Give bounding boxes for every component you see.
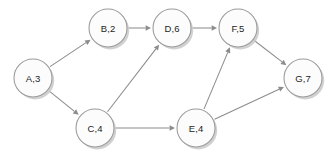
node-label: G,7 xyxy=(295,73,311,84)
edge-c-to-d xyxy=(108,45,160,112)
edge-e-to-f xyxy=(204,47,230,109)
arrowhead-icon xyxy=(85,40,91,45)
node-c[interactable]: C,4 xyxy=(76,109,116,149)
node-label: A,3 xyxy=(26,73,41,84)
edge-e-to-g xyxy=(215,87,284,120)
arrowhead-icon xyxy=(146,25,151,30)
node-label: F,5 xyxy=(232,23,245,34)
node-label: E,4 xyxy=(189,123,204,134)
node-label: C,4 xyxy=(87,123,102,134)
edge-d-to-f xyxy=(193,25,218,30)
arrowhead-icon xyxy=(170,125,175,130)
arrowhead-icon xyxy=(280,60,286,65)
arrowhead-icon xyxy=(212,25,217,30)
graph-svg: A,3B,2D,6F,5G,7C,4E,4 xyxy=(0,0,334,156)
node-g[interactable]: G,7 xyxy=(284,59,324,99)
diagram-canvas: A,3B,2D,6F,5G,7C,4E,4 xyxy=(0,0,334,156)
node-d[interactable]: D,6 xyxy=(153,9,193,49)
node-label: B,2 xyxy=(101,23,116,34)
edge-a-to-c xyxy=(49,91,79,115)
edge-b-to-d xyxy=(129,25,152,30)
edge-a-to-b xyxy=(50,40,90,67)
node-b[interactable]: B,2 xyxy=(89,9,129,49)
node-a[interactable]: A,3 xyxy=(14,59,54,99)
edge-f-to-g xyxy=(254,41,286,66)
edge-c-to-e xyxy=(116,125,176,130)
node-e[interactable]: E,4 xyxy=(177,109,217,149)
arrowhead-icon xyxy=(154,45,159,51)
node-f[interactable]: F,5 xyxy=(219,9,259,49)
node-label: D,6 xyxy=(164,23,179,34)
